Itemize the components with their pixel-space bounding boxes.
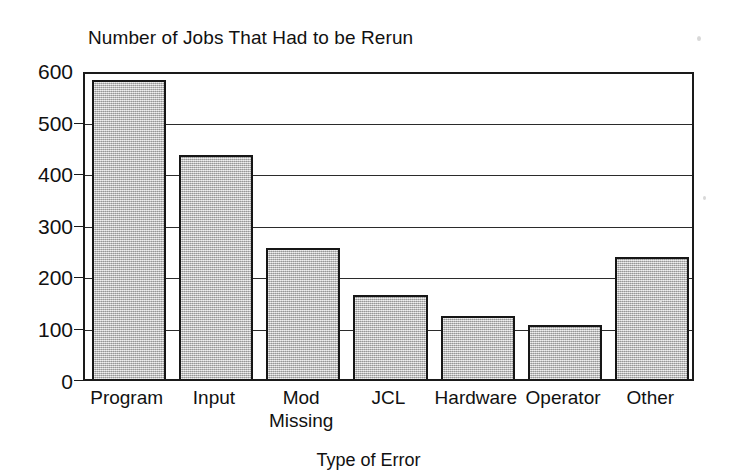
- bar-input: [179, 155, 253, 379]
- y-tick-label-0: 0: [61, 371, 73, 392]
- y-tick-label-300: 300: [38, 216, 73, 237]
- x-axis-title: Type of Error: [0, 450, 737, 471]
- bars: [85, 74, 692, 379]
- y-tick-label-500: 500: [38, 113, 73, 134]
- y-axis: 600 500 400 300 200 100 0: [0, 0, 83, 475]
- x-tick-label-input: Input: [170, 386, 257, 409]
- y-tick-mark-300: [74, 226, 83, 227]
- bar-jcl: [353, 295, 427, 379]
- x-tick-label-program: Program: [83, 386, 170, 409]
- y-tick-label-600: 600: [38, 61, 73, 82]
- bar-mod-missing: [266, 248, 340, 379]
- x-tick-label-hardware: Hardware: [432, 386, 519, 409]
- y-tick-mark-500: [74, 123, 83, 124]
- bar-program: [92, 80, 166, 379]
- scan-speckle: [697, 36, 701, 41]
- plot-area: [83, 72, 694, 381]
- y-tick-label-100: 100: [38, 319, 73, 340]
- scan-speckle: [703, 196, 706, 200]
- x-tick-label-jcl: JCL: [345, 386, 432, 409]
- y-tick-mark-100: [74, 329, 83, 330]
- bar-operator: [528, 325, 602, 379]
- chart-title: Number of Jobs That Had to be Rerun: [88, 27, 413, 49]
- y-tick-mark-400: [74, 174, 83, 175]
- chart-screenshot: Number of Jobs That Had to be Rerun 600 …: [0, 0, 737, 475]
- y-tick-label-400: 400: [38, 164, 73, 185]
- y-tick-mark-200: [74, 277, 83, 278]
- bar-hardware: [441, 316, 515, 379]
- x-tick-label-operator: Operator: [519, 386, 606, 409]
- bar-other: [615, 257, 689, 379]
- x-tick-label-mod-missing: Mod Missing: [258, 386, 345, 432]
- y-tick-label-200: 200: [38, 267, 73, 288]
- x-tick-label-other: Other: [607, 386, 694, 409]
- y-tick-mark-0: [74, 380, 83, 381]
- x-axis-categories: Program Input Mod Missing JCL Hardware O…: [83, 386, 694, 441]
